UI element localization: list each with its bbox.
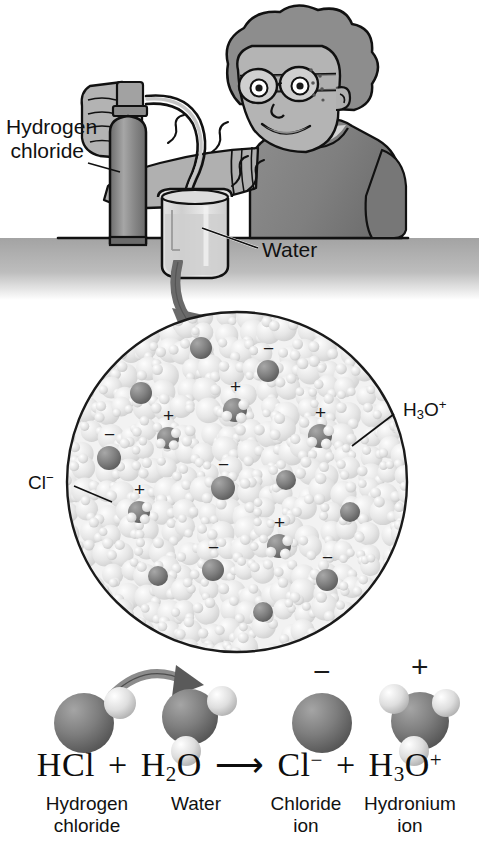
- hydronium-hydrogen: [282, 535, 293, 546]
- ion-charge-sign: +: [315, 402, 326, 423]
- water-hydrogen-bump: [299, 417, 310, 428]
- water-hydrogen-bump: [80, 422, 89, 431]
- water-hydrogen-bump: [175, 629, 186, 640]
- water-hydrogen-bump: [78, 454, 88, 464]
- water-hydrogen-bump: [269, 306, 278, 315]
- hydronium-hydrogen: [238, 399, 249, 410]
- water-molecule: [78, 364, 100, 386]
- water-molecule: [80, 576, 105, 601]
- water-hydrogen-bump: [336, 460, 345, 469]
- water-hydrogen-bump: [295, 468, 306, 479]
- water-hydrogen-bump: [290, 350, 301, 361]
- water-hydrogen-bump: [238, 632, 249, 643]
- water-hydrogen-bump: [357, 466, 368, 477]
- water-hydrogen-bump: [351, 366, 361, 376]
- water-hydrogen-bump: [253, 508, 262, 517]
- water-hydrogen-bump: [83, 362, 92, 371]
- water-hydrogen-bump: [319, 511, 328, 520]
- solvated-ion: [190, 337, 212, 359]
- water-molecule: [320, 620, 346, 646]
- equation-term-chloride: Cl−: [277, 746, 323, 783]
- water-hydrogen-bump: [355, 533, 365, 543]
- water-hydrogen-bump: [347, 387, 356, 396]
- water-hydrogen-bump: [185, 425, 196, 436]
- water-hydrogen-bump: [387, 383, 396, 392]
- water-hydrogen-bump: [81, 496, 90, 505]
- equation-plus-2: +: [327, 746, 365, 783]
- water-hydrogen-bump: [69, 576, 79, 586]
- water-hydrogen-bump: [243, 456, 253, 466]
- water-hydrogen-bump: [398, 537, 408, 547]
- water-hydrogen-bump: [121, 618, 132, 629]
- equation-plus-1: +: [99, 746, 137, 783]
- water-hydrogen-bump: [171, 608, 180, 617]
- water-molecule: [382, 567, 402, 587]
- water-hydrogen-bump: [358, 575, 368, 585]
- caption-water: Water: [150, 793, 242, 815]
- hydronium-hydrogen: [280, 549, 291, 560]
- water-hydrogen-bump: [320, 503, 329, 512]
- water-hydrogen-bump: [152, 364, 163, 375]
- water-hydrogen-bump: [142, 458, 152, 468]
- water-hydrogen-bump: [262, 409, 270, 417]
- water-hydrogen-bump: [96, 401, 106, 411]
- hydronium-hydrogen: [221, 411, 232, 422]
- solvated-ion: [340, 502, 360, 522]
- water-hydrogen-bump: [373, 410, 382, 419]
- water-hydrogen-bump: [177, 552, 187, 562]
- water-hydrogen-bump: [115, 540, 125, 550]
- water-hydrogen-bump: [58, 546, 67, 555]
- water-hydrogen-bump: [240, 534, 251, 545]
- water-hydrogen-bump: [269, 320, 280, 331]
- water-hydrogen-bump: [178, 464, 188, 474]
- water-hydrogen-bump: [281, 300, 290, 308]
- water-hydrogen-bump: [198, 628, 208, 638]
- water-hydrogen-bump: [184, 529, 193, 538]
- chloride-model-charge-sign: −: [313, 655, 331, 689]
- ion-sphere: [211, 476, 235, 500]
- water-hydrogen-bump: [205, 597, 216, 608]
- water-hydrogen-bump: [367, 554, 376, 563]
- water-hydrogen-bump: [169, 345, 179, 355]
- hydronium-hydrogen: [127, 513, 137, 523]
- water-hydrogen-bump: [156, 347, 167, 358]
- water-hydrogen-bump: [193, 603, 204, 614]
- equation-arrow: ⟶: [206, 746, 274, 783]
- water-hydrogen-bump: [158, 622, 168, 632]
- water-hydrogen-bump: [140, 416, 150, 426]
- water-hydrogen-bump: [346, 433, 357, 444]
- water-hydrogen-bump: [218, 583, 229, 594]
- ion-charge-sign: +: [163, 405, 174, 426]
- hydronium-hydrogen: [323, 425, 334, 436]
- water-hydrogen-bump: [219, 361, 230, 372]
- water-hydrogen-bump: [89, 518, 99, 528]
- water-hydrogen-bump: [316, 592, 327, 603]
- water-hydrogen-bump: [110, 348, 120, 358]
- water-hydrogen-bump: [235, 425, 246, 436]
- water-molecule: [351, 599, 374, 622]
- ion-sphere: [130, 382, 152, 404]
- water-hydrogen-bump: [254, 498, 263, 507]
- water-hydrogen-bump: [99, 385, 108, 394]
- water-hydrogen-bump: [201, 578, 209, 586]
- water-hydrogen-bump: [286, 374, 296, 384]
- water-hydrogen-bump: [270, 429, 281, 440]
- water-hydrogen-bump: [88, 593, 99, 604]
- label-chloride-ion: Cl−: [28, 471, 54, 493]
- water-hydrogen-bump: [184, 617, 195, 628]
- equation-term-h2o: H2O: [141, 746, 202, 783]
- water-hydrogen-bump: [135, 530, 145, 540]
- water-hydrogen-bump: [250, 542, 259, 551]
- water-hydrogen-bump: [94, 412, 104, 422]
- hydronium-hydrogen: [140, 514, 150, 524]
- water-hydrogen-bump: [314, 380, 324, 390]
- water-hydrogen-bump: [134, 547, 143, 556]
- water-hydrogen-bump: [278, 348, 288, 358]
- water-hydrogen-bump: [249, 346, 258, 355]
- water-hydrogen-bump: [237, 557, 246, 566]
- water-hydrogen-bump: [109, 578, 118, 587]
- water-hydrogen-bump: [298, 536, 308, 546]
- chemical-equation: HCl + H2O ⟶ Cl− + H3O+: [0, 744, 479, 787]
- ion-charge-sign: −: [322, 547, 333, 568]
- water-hydrogen-bump: [340, 319, 351, 330]
